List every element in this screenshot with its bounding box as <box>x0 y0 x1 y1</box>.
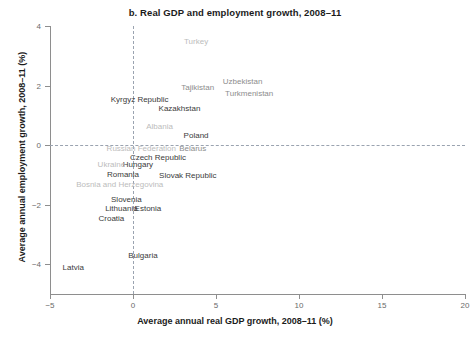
data-point-label: Romania <box>107 169 139 178</box>
x-tick: 0 <box>133 294 134 299</box>
y-tick-label: 2 <box>37 81 41 90</box>
data-point-label: Ukraine <box>98 159 126 168</box>
x-tick-label: 20 <box>461 301 470 310</box>
x-tick: 15 <box>382 294 383 299</box>
data-point-label: Lithuania <box>105 203 137 212</box>
y-tick-label: −4 <box>32 260 41 269</box>
chart-figure: b. Real GDP and employment growth, 2008–… <box>0 0 470 348</box>
data-point-label: Russian Federation <box>107 144 176 153</box>
x-tick: 10 <box>299 294 300 299</box>
data-point-label: Slovak Republic <box>159 170 216 179</box>
data-point-label: Albania <box>146 122 173 131</box>
data-point-label: Latvia <box>63 263 84 272</box>
data-point-label: Kyrgyz Republic <box>111 94 169 103</box>
data-point-label: Bulgaria <box>128 251 157 260</box>
y-axis-title: Average annual employment growth, 2008–1… <box>17 17 27 297</box>
x-tick-label: 5 <box>214 301 218 310</box>
x-axis-title: Average annual real GDP growth, 2008–11 … <box>0 316 470 326</box>
y-tick: −4 <box>45 264 50 265</box>
y-axis-line <box>50 26 51 294</box>
y-tick: 4 <box>45 26 50 27</box>
x-tick: −5 <box>50 294 51 299</box>
x-tick: 5 <box>216 294 217 299</box>
data-point-label: Kazakhstan <box>159 103 201 112</box>
chart-title: b. Real GDP and employment growth, 2008–… <box>0 7 470 18</box>
plot-area: 420−2−4 −505101520 TurkeyTajikistanUzbek… <box>50 26 465 294</box>
y-tick: −2 <box>45 205 50 206</box>
x-tick-label: 0 <box>131 301 135 310</box>
data-point-label: Hungary <box>123 159 153 168</box>
data-point-label: Tajikistan <box>181 83 214 92</box>
y-tick-label: −2 <box>32 200 41 209</box>
x-tick-label: 10 <box>295 301 304 310</box>
y-tick: 2 <box>45 86 50 87</box>
data-point-label: Belarus <box>179 144 206 153</box>
x-axis-line <box>50 294 465 295</box>
x-tick-label: 15 <box>378 301 387 310</box>
data-point-label: Poland <box>184 131 209 140</box>
data-point-label: Uzbekistan <box>223 77 263 86</box>
data-point-label: Turkmenistan <box>225 89 273 98</box>
x-tick-label: −5 <box>45 301 54 310</box>
data-point-label: Turkey <box>184 36 208 45</box>
data-point-label: Slovenia <box>111 194 142 203</box>
y-tick-label: 4 <box>37 22 41 31</box>
data-point-label: Croatia <box>99 214 125 223</box>
data-point-label: Bosnia and Herzegovina <box>76 179 163 188</box>
y-tick-label: 0 <box>37 141 41 150</box>
x-tick: 20 <box>465 294 466 299</box>
data-point-label: Estonia <box>135 203 162 212</box>
